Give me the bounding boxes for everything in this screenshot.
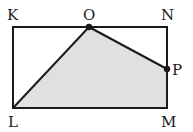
geometry-diagram: K O N P L M: [0, 0, 193, 132]
label-N: N: [161, 6, 174, 24]
shaded-region-LOPM: [13, 27, 167, 108]
label-K: K: [7, 6, 19, 24]
label-P: P: [172, 61, 182, 79]
point-P: [164, 66, 170, 72]
label-M: M: [161, 113, 176, 131]
label-O: O: [83, 6, 95, 24]
label-L: L: [8, 113, 18, 131]
point-O: [86, 24, 92, 30]
